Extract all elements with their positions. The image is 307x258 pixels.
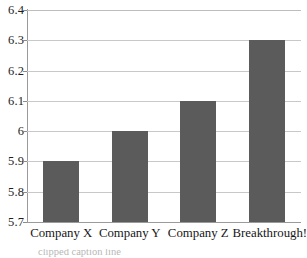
x-axis-tick-labels: Company XCompany YCompany ZBreakthrough! [27,226,301,244]
y-tick-mark [23,131,27,132]
plot-area [27,10,301,222]
gridline [27,222,301,223]
bar [112,131,148,222]
y-tick-label: 5.9 [0,155,24,168]
y-tick-mark [23,40,27,41]
y-tick-label: 5.8 [0,186,24,199]
bar [180,101,216,222]
y-tick-mark [23,10,27,11]
y-tick-label: 6.2 [0,65,24,78]
bar-chart-figure: 6.46.36.26.165.95.85.7 Company XCompany … [0,0,307,258]
x-tick-label: Breakthrough! [233,226,302,241]
gridline [27,10,301,11]
bar [43,161,79,222]
y-tick-mark [23,101,27,102]
x-tick-label: Company X [27,226,96,241]
x-tick-label: Company Y [96,226,165,241]
y-tick-mark [23,71,27,72]
y-tick-label: 6 [0,125,24,138]
y-tick-mark [23,192,27,193]
x-tick-label: Company Z [164,226,233,241]
bar [249,40,285,222]
y-tick-label: 5.7 [0,216,24,229]
caption-text: clipped caption line [38,249,121,257]
y-tick-label: 6.4 [0,4,24,17]
y-tick-label: 6.3 [0,34,24,47]
y-tick-mark [23,222,27,223]
y-tick-mark [23,161,27,162]
caption-strip: clipped caption line [0,249,307,258]
y-tick-label: 6.1 [0,95,24,108]
